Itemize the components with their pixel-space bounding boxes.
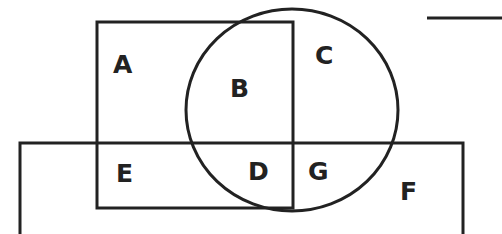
region-label-f: F	[400, 177, 417, 206]
region-label-e: E	[116, 159, 133, 188]
region-label-a: A	[113, 50, 133, 79]
region-label-b: B	[230, 74, 249, 103]
venn-diagram: A B C E D G F	[0, 0, 502, 234]
region-label-c: C	[315, 41, 333, 70]
region-label-g: G	[308, 157, 329, 186]
region-label-d: D	[248, 157, 269, 186]
lower-rectangle	[20, 143, 463, 234]
